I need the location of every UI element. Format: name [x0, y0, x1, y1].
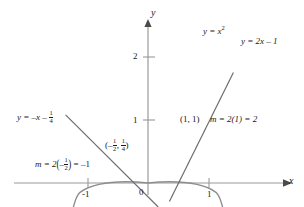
tangent-left-equation-prefix: y = –x – — [17, 112, 49, 122]
tangent-line-right — [169, 72, 233, 201]
fraction-denominator: 4 — [49, 118, 53, 125]
x-axis-label: x — [289, 176, 293, 186]
tangent-left-slope: m = 2(– 1 2 ) = –1 — [35, 157, 90, 172]
slope-suffix: = –1 — [71, 159, 90, 169]
x-tick-label-minus1: -1 — [82, 190, 90, 199]
origin-label: 0 — [139, 188, 144, 197]
tangent-left-equation-fraction: 1 4 — [49, 110, 53, 125]
tangent-right-point: (1, 1) — [180, 115, 200, 124]
curve-label-exponent: 2 — [222, 24, 225, 31]
curve-label: y = x2 — [203, 25, 225, 36]
y-axis-label: y — [151, 8, 155, 18]
tangent-left-point: (– 1 2 , 1 4 ) — [105, 138, 129, 153]
y-axis — [143, 19, 155, 195]
slope-open-paren: ( — [57, 158, 60, 172]
slope-prefix: m = 2 — [35, 159, 57, 169]
point-open-paren: (– — [105, 140, 113, 150]
math-figure: x y -1 0 1 1 2 y = x2 y = 2x – 1 (1, 1) … — [0, 0, 304, 207]
tangent-right-slope: m = 2(1) = 2 — [210, 115, 257, 124]
tangent-right-equation: y = 2x – 1 — [241, 37, 278, 46]
tangent-left-equation: y = –x – 1 4 — [17, 110, 53, 125]
curve-label-text: y = x — [203, 26, 222, 36]
y-tick-label-1: 1 — [133, 116, 138, 125]
y-tick-label-2: 2 — [133, 52, 138, 61]
point-close-paren: ) — [126, 140, 129, 150]
slope-close-paren: ) — [68, 158, 71, 172]
graph-canvas — [0, 0, 304, 207]
x-tick-label-1: 1 — [207, 190, 212, 199]
